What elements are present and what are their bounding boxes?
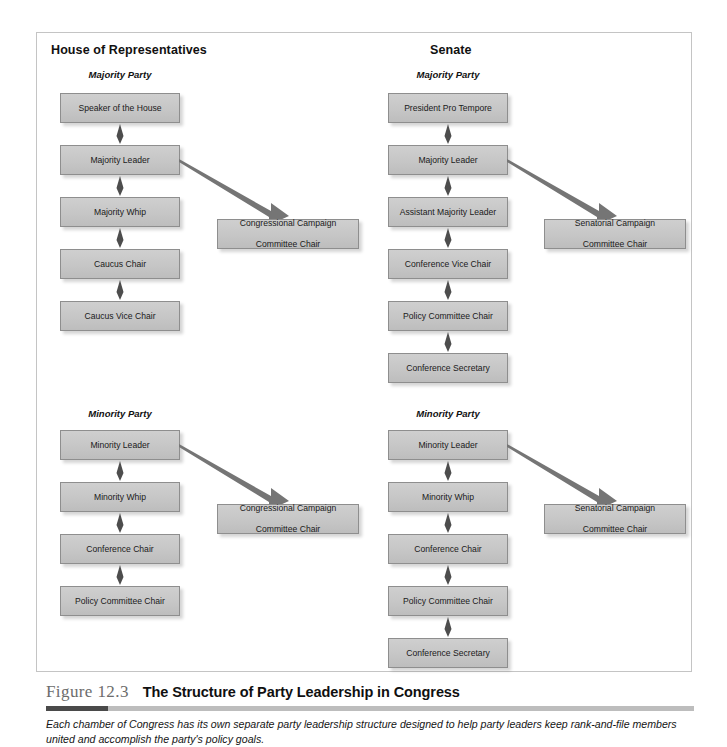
connector-arrow-down: [115, 513, 126, 533]
connector-arrow-down: [443, 228, 454, 248]
connector-arrow-down: [443, 332, 454, 352]
node-label: Majority Leader: [90, 155, 149, 165]
node-house-majority-2[interactable]: Majority Whip: [60, 197, 180, 227]
node-label-line1: Congressional Campaign: [240, 503, 337, 513]
node-label: Minority Leader: [90, 440, 149, 450]
node-house-majority-campaign-committee[interactable]: Congressional Campaign Committee Chair: [217, 219, 359, 249]
party-label-senate-minority: Minority Party: [416, 408, 479, 419]
connector-arrow-down: [443, 513, 454, 533]
node-label: Majority Leader: [418, 155, 477, 165]
party-label-senate-majority: Majority Party: [417, 69, 480, 80]
node-label-line1: Senatorial Campaign: [575, 218, 655, 228]
node-house-minority-2[interactable]: Conference Chair: [60, 534, 180, 564]
node-label: President Pro Tempore: [404, 103, 492, 113]
node-label: Conference Chair: [86, 544, 153, 554]
node-label: Policy Committee Chair: [403, 311, 493, 321]
caption-divider-rule: [46, 706, 694, 711]
node-house-minority-3[interactable]: Policy Committee Chair: [60, 586, 180, 616]
connector-arrow-down: [443, 617, 454, 637]
chamber-title-senate: Senate: [430, 43, 472, 57]
node-senate-majority-2[interactable]: Assistant Majority Leader: [388, 197, 508, 227]
connector-arrow-down: [443, 565, 454, 585]
node-senate-majority-5[interactable]: Conference Secretary: [388, 353, 508, 383]
node-senate-minority-2[interactable]: Conference Chair: [388, 534, 508, 564]
node-senate-majority-3[interactable]: Conference Vice Chair: [388, 249, 508, 279]
figure-number: Figure 12.3: [46, 682, 129, 702]
node-house-majority-4[interactable]: Caucus Vice Chair: [60, 301, 180, 331]
node-house-majority-1[interactable]: Majority Leader: [60, 145, 180, 175]
node-label-line1: Congressional Campaign: [240, 218, 337, 228]
connector-arrow-down: [115, 565, 126, 585]
node-label: Majority Whip: [94, 207, 146, 217]
connector-arrow-down: [115, 176, 126, 196]
node-label: Policy Committee Chair: [403, 596, 493, 606]
node-senate-minority-campaign-committee[interactable]: Senatorial Campaign Committee Chair: [544, 504, 686, 534]
figure-caption-text: Each chamber of Congress has its own sep…: [46, 717, 683, 747]
node-label: Conference Chair: [414, 544, 481, 554]
node-senate-minority-3[interactable]: Policy Committee Chair: [388, 586, 508, 616]
node-senate-majority-campaign-committee[interactable]: Senatorial Campaign Committee Chair: [544, 219, 686, 249]
node-house-minority-1[interactable]: Minority Whip: [60, 482, 180, 512]
party-label-house-minority: Minority Party: [88, 408, 151, 419]
figure-title: The Structure of Party Leadership in Con…: [143, 684, 460, 700]
node-label-line2: Committee Chair: [240, 524, 337, 534]
node-label: Policy Committee Chair: [75, 596, 165, 606]
node-label-line2: Committee Chair: [240, 239, 337, 249]
node-senate-majority-4[interactable]: Policy Committee Chair: [388, 301, 508, 331]
figure-caption-block: Figure 12.3 The Structure of Party Leade…: [46, 682, 694, 747]
node-label: Conference Vice Chair: [405, 259, 491, 269]
node-label-line2: Committee Chair: [575, 524, 655, 534]
connector-arrow-down: [115, 280, 126, 300]
connector-arrow-down: [443, 280, 454, 300]
connector-arrow-down: [115, 124, 126, 144]
figure-frame: House of Representatives Majority Party …: [36, 32, 692, 672]
node-label: Conference Secretary: [406, 648, 490, 658]
node-house-majority-0[interactable]: Speaker of the House: [60, 93, 180, 123]
node-label: Caucus Vice Chair: [84, 311, 155, 321]
node-senate-majority-1[interactable]: Majority Leader: [388, 145, 508, 175]
chamber-title-house: House of Representatives: [51, 43, 207, 57]
node-senate-minority-1[interactable]: Minority Whip: [388, 482, 508, 512]
node-label: Assistant Majority Leader: [400, 207, 496, 217]
node-label: Speaker of the House: [78, 103, 161, 113]
node-label-line2: Committee Chair: [575, 239, 655, 249]
node-senate-minority-4[interactable]: Conference Secretary: [388, 638, 508, 668]
connector-arrow-down: [443, 124, 454, 144]
node-label: Caucus Chair: [94, 259, 146, 269]
figure-caption-heading: Figure 12.3 The Structure of Party Leade…: [46, 682, 694, 702]
node-senate-minority-0[interactable]: Minority Leader: [388, 430, 508, 460]
connector-arrow-down: [443, 461, 454, 481]
party-label-house-majority: Majority Party: [89, 69, 152, 80]
node-senate-majority-0[interactable]: President Pro Tempore: [388, 93, 508, 123]
node-label: Conference Secretary: [406, 363, 490, 373]
connector-arrow-down: [115, 461, 126, 481]
node-label-line1: Senatorial Campaign: [575, 503, 655, 513]
connector-arrow-down: [115, 228, 126, 248]
node-house-minority-0[interactable]: Minority Leader: [60, 430, 180, 460]
node-label: Minority Whip: [422, 492, 474, 502]
node-label: Minority Whip: [94, 492, 146, 502]
node-label: Minority Leader: [418, 440, 477, 450]
node-house-majority-3[interactable]: Caucus Chair: [60, 249, 180, 279]
connector-arrow-down: [443, 176, 454, 196]
node-house-minority-campaign-committee[interactable]: Congressional Campaign Committee Chair: [217, 504, 359, 534]
